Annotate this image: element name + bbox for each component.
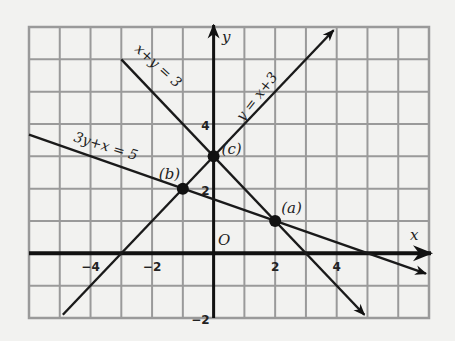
x-tick-label: −4 (81, 260, 99, 274)
y-tick-label: 2 (201, 184, 209, 198)
x-tick-label: −2 (143, 260, 161, 274)
y-tick-label: −2 (191, 313, 209, 327)
equation-label-x-plus-y-3: x+y = 3 (132, 40, 185, 90)
origin-label: O (218, 231, 230, 249)
series-line-0 (121, 59, 364, 314)
x-tick-label: 2 (271, 260, 279, 274)
equation-label-y-eq-x-plus-3: y = x+3 (232, 69, 280, 125)
x-axis-label: x (410, 226, 419, 244)
intersection-point (177, 183, 189, 195)
equation-label-3y-plus-x-5: 3y+x = 5 (72, 129, 140, 164)
points: (a)(b)(c) (159, 140, 302, 227)
x-tick-label: 4 (333, 260, 341, 274)
point-label: (c) (222, 140, 242, 158)
point-label: (b) (159, 165, 180, 183)
y-axis-label: y (221, 28, 231, 46)
graph: (a)(b)(c) x y O x+y = 3 y = x+3 3y+x = 5… (0, 0, 455, 341)
y-tick-label: 4 (201, 119, 209, 133)
intersection-point (269, 215, 281, 227)
series-line-1 (63, 30, 334, 315)
intersection-point (208, 150, 220, 162)
point-label: (a) (281, 199, 302, 217)
